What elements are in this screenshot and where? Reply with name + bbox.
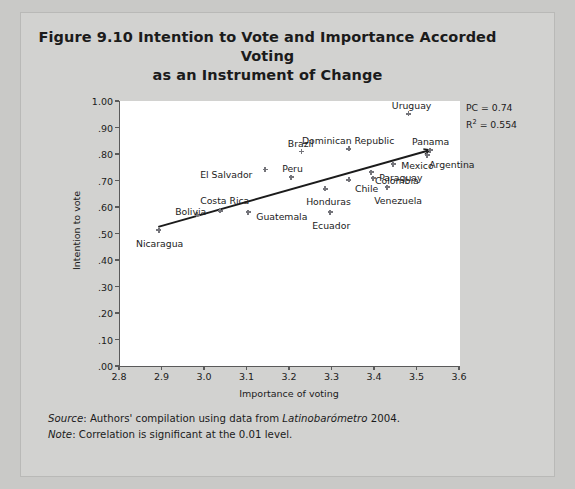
x-axis-tick-label: 3.4 (366, 371, 381, 382)
x-axis-tick-label: 3.1 (239, 371, 254, 382)
y-axis-tick-mark (115, 286, 119, 287)
data-point-label: El Salvador (200, 169, 252, 180)
y-axis-tick-mark (115, 259, 119, 260)
data-point-label: Honduras (306, 196, 351, 207)
y-axis-tick-label: .90 (79, 122, 113, 133)
data-point-marker (299, 149, 304, 154)
x-axis-tick-mark (458, 366, 459, 370)
r-squared-value: R2 = 0.554 (466, 115, 517, 132)
y-axis-tick-label: .00 (79, 361, 113, 372)
y-axis-tick-mark (115, 312, 119, 313)
pearson-correlation-value: PC = 0.74 (466, 100, 517, 115)
data-point-marker (428, 148, 433, 153)
y-axis-tick-label: .10 (79, 334, 113, 345)
y-axis-tick-label: .20 (79, 308, 113, 319)
x-axis-tick-label: 3.6 (451, 371, 466, 382)
x-axis-tick-label: 2.9 (154, 371, 169, 382)
data-point-marker (385, 185, 390, 190)
y-axis-tick-mark (115, 206, 119, 207)
data-point-label: Paraguay (379, 172, 422, 183)
y-axis-tick-mark (115, 339, 119, 340)
data-point-label: Argentina (429, 159, 474, 170)
y-axis-tick-label: .40 (79, 255, 113, 266)
x-axis-tick-label: 2.8 (111, 371, 126, 382)
data-point-marker (369, 170, 374, 175)
x-axis-tick-mark (373, 366, 374, 370)
data-point-label: Costa Rica (200, 195, 249, 206)
note-line: Note: Correlation is significant at the … (48, 427, 400, 443)
data-point-marker (218, 208, 223, 213)
data-point-label: Nicaragua (136, 238, 183, 249)
data-point-label: Bolivia (175, 206, 206, 217)
y-axis-tick-mark (115, 153, 119, 154)
statistics-annotations: PC = 0.74 R2 = 0.554 (466, 100, 517, 132)
x-axis-tick-mark (331, 366, 332, 370)
data-point-label: Peru (282, 163, 303, 174)
y-axis-tick-label: .80 (79, 149, 113, 160)
x-axis-tick-label: 3.0 (196, 371, 211, 382)
data-point-marker (323, 186, 328, 191)
x-axis-tick-label: 3.5 (409, 371, 424, 382)
y-axis-tick-mark (115, 233, 119, 234)
y-axis-tick-label: .70 (79, 175, 113, 186)
x-axis-title: Importance of voting (229, 388, 349, 399)
x-axis-tick-mark (288, 366, 289, 370)
x-axis-tick-label: 3.2 (281, 371, 296, 382)
y-axis-tick-label: 1.00 (79, 96, 113, 107)
data-point-marker (328, 210, 333, 215)
data-point-marker (289, 175, 294, 180)
data-point-marker (346, 146, 351, 151)
data-point-label: Panama (412, 136, 449, 147)
x-axis-tick-mark (203, 366, 204, 370)
figure-footer: Source: Authors' compilation using data … (48, 411, 400, 442)
data-point-marker (391, 162, 396, 167)
data-point-label: Dominican Republic (302, 135, 394, 146)
data-point-marker (406, 111, 411, 116)
data-point-marker (246, 210, 251, 215)
data-point-marker (371, 176, 376, 181)
data-point-marker (156, 228, 161, 233)
y-axis-tick-mark (115, 180, 119, 181)
x-axis-tick-mark (161, 366, 162, 370)
source-line: Source: Authors' compilation using data … (48, 411, 400, 427)
y-axis-tick-label: .60 (79, 202, 113, 213)
data-point-label: Uruguay (392, 100, 432, 111)
data-point-label: Ecuador (312, 220, 350, 231)
x-axis-tick-label: 3.3 (324, 371, 339, 382)
y-axis-tick-mark (115, 100, 119, 101)
y-axis-tick-mark (115, 127, 119, 128)
data-point-label: Venezuela (374, 195, 422, 206)
x-axis-tick-mark (416, 366, 417, 370)
data-point-marker (346, 177, 351, 182)
x-axis-tick-mark (246, 366, 247, 370)
y-axis-tick-label: .50 (79, 228, 113, 239)
x-axis-tick-mark (118, 366, 119, 370)
data-point-marker (263, 167, 268, 172)
y-axis-tick-label: .30 (79, 281, 113, 292)
data-point-label: Guatemala (256, 211, 307, 222)
data-point-marker (425, 153, 430, 158)
